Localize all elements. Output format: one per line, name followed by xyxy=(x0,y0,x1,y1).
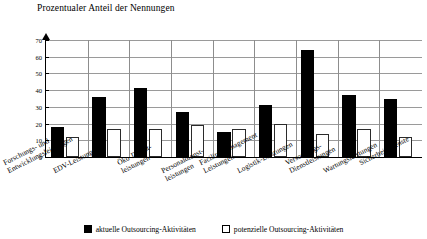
x-axis-category-labels: Forschungs- und EntwicklungsleistungenED… xyxy=(0,158,427,208)
bar-actual-6 xyxy=(301,50,315,157)
y-axis-arrow-icon xyxy=(42,33,50,40)
y-tick-mark-20 xyxy=(45,124,49,125)
y-tick-mark-50 xyxy=(45,73,49,74)
y-tick-label-40: 40 xyxy=(36,87,43,94)
y-tick-mark-30 xyxy=(45,107,49,108)
chart-legend: aktuelle Outsourcing-Aktivitätenpotenzie… xyxy=(0,222,427,236)
y-axis-title: Prozentualer Anteil der Nennungen xyxy=(37,2,175,14)
y-tick-mark-0 xyxy=(45,157,49,158)
y-tick-label-30: 30 xyxy=(36,103,43,110)
legend-item-1: potenzielle Outsourcing-Aktivitäten xyxy=(222,225,343,234)
outsourcing-bar-chart: Prozentualer Anteil der Nennungen 010203… xyxy=(0,0,427,239)
legend-item-0: aktuelle Outsourcing-Aktivitäten xyxy=(84,225,196,234)
legend-label-1: potenzielle Outsourcing-Aktivitäten xyxy=(234,225,343,234)
y-tick-label-50: 50 xyxy=(36,70,43,77)
legend-label-0: aktuelle Outsourcing-Aktivitäten xyxy=(96,225,196,234)
y-tick-mark-10 xyxy=(45,140,49,141)
bar-potential-1 xyxy=(107,129,121,157)
y-tick-mark-70 xyxy=(45,40,49,41)
bar-actual-3 xyxy=(176,112,190,157)
y-tick-mark-40 xyxy=(45,90,49,91)
y-tick-label-20: 20 xyxy=(36,120,43,127)
y-tick-label-70: 70 xyxy=(36,37,43,44)
legend-swatch-actual-icon xyxy=(84,225,92,233)
y-tick-label-60: 60 xyxy=(36,53,43,60)
y-tick-mark-60 xyxy=(45,57,49,58)
bar-actual-7 xyxy=(342,95,356,157)
legend-swatch-potential-icon xyxy=(222,225,230,233)
